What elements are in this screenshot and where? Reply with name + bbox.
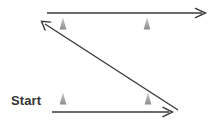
top-arrow bbox=[47, 8, 206, 17]
bottom-arrow bbox=[52, 107, 173, 116]
marker-bottom-right-triangle-icon bbox=[145, 93, 152, 105]
start-label: Start bbox=[11, 93, 41, 108]
marker-top-right-triangle-icon bbox=[144, 18, 151, 30]
triangle-markers bbox=[60, 18, 152, 105]
diagonal-arrowhead-icon bbox=[42, 21, 51, 30]
diagonal-arrow-shaft bbox=[45, 24, 178, 110]
diagram-canvas: Start bbox=[0, 0, 214, 122]
marker-bottom-left-triangle-icon bbox=[60, 93, 67, 105]
marker-top-left-triangle-icon bbox=[60, 18, 67, 30]
